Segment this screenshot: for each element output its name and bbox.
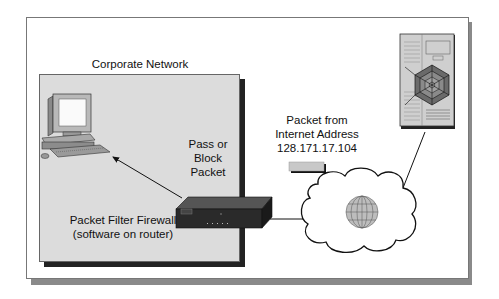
- cloud-globe-icon: [301, 168, 415, 252]
- packet-icon: [289, 162, 326, 173]
- pass-block-arrow: [113, 157, 182, 198]
- desktop-computer-icon: [41, 94, 110, 159]
- diagram-graphics: [0, 0, 499, 299]
- router-icon: [176, 197, 272, 228]
- cloud-server-link: [403, 132, 425, 188]
- server-web-icon: [400, 34, 455, 129]
